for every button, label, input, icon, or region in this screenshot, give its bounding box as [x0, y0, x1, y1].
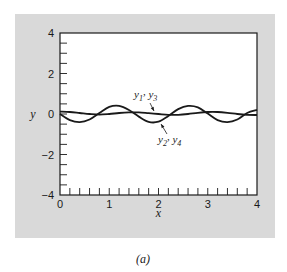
x-tick-label: 4	[254, 198, 260, 210]
y-axis-label: y	[29, 107, 36, 121]
y-tick-label: 4	[48, 27, 54, 39]
x-tick-label: 3	[205, 198, 211, 210]
y-tick-label: 2	[48, 68, 54, 80]
x-tick-label: 0	[57, 198, 63, 210]
y-tick-label: 0	[48, 108, 54, 120]
figure-caption: (a)	[136, 252, 150, 266]
chart-figure: 01234−4−2024 x y y1, y3y2, y4 (a)	[0, 0, 287, 272]
y-tick-label: −2	[41, 149, 54, 161]
x-axis-label: x	[155, 206, 162, 220]
y-tick-label: −4	[41, 189, 54, 201]
x-tick-label: 1	[106, 198, 112, 210]
